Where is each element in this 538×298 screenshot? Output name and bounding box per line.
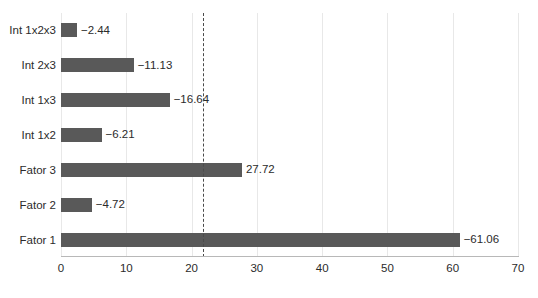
x-tick-10: 10 <box>120 262 133 274</box>
bar-value-label: −2.44 <box>81 25 110 37</box>
y-axis-labels: Int 1x2x3Int 2x3Int 1x3Int 1x2Fator 3Fat… <box>0 13 56 257</box>
bar-value-label: −6.21 <box>106 129 135 141</box>
x-tick-50: 50 <box>381 262 394 274</box>
bar-value-label: −4.72 <box>96 199 125 211</box>
x-tick-0: 0 <box>58 262 64 274</box>
y-axis-label-fator-1: Fator 1 <box>0 234 56 246</box>
reference-line <box>203 13 204 257</box>
x-tick-60: 60 <box>446 262 459 274</box>
bar-row: −4.72 <box>61 187 518 222</box>
gridline-70 <box>518 13 519 257</box>
y-axis-label-fator-3: Fator 3 <box>0 164 56 176</box>
x-axis-line <box>61 256 519 257</box>
y-axis-label-fator-2: Fator 2 <box>0 199 56 211</box>
x-tick-40: 40 <box>316 262 329 274</box>
bar-row: −61.06 <box>61 222 518 257</box>
bar-row: 27.72 <box>61 152 518 187</box>
bar <box>61 128 102 142</box>
bar-row: −11.13 <box>61 48 518 83</box>
plot-area: −2.44−11.13−16.64−6.2127.72−4.72−61.06 <box>61 13 518 257</box>
bar-value-label: −61.06 <box>464 234 500 246</box>
bar-row: −2.44 <box>61 13 518 48</box>
bar-value-label: 27.72 <box>246 164 275 176</box>
x-tick-70: 70 <box>512 262 525 274</box>
bar <box>61 93 170 107</box>
bar-row: −16.64 <box>61 83 518 118</box>
y-axis-label-int-2x3: Int 2x3 <box>0 59 56 71</box>
x-tick-30: 30 <box>250 262 263 274</box>
pareto-chart: Int 1x2x3Int 2x3Int 1x3Int 1x2Fator 3Fat… <box>0 0 538 298</box>
bar <box>61 58 134 72</box>
x-tick-20: 20 <box>185 262 198 274</box>
bar <box>61 233 460 247</box>
bar <box>61 23 77 37</box>
y-axis-label-int-1x3: Int 1x3 <box>0 94 56 106</box>
bar <box>61 163 242 177</box>
bar-value-label: −11.13 <box>138 60 173 72</box>
bar <box>61 198 92 212</box>
bar-row: −6.21 <box>61 118 518 153</box>
y-axis-label-int-1x2x3: Int 1x2x3 <box>0 24 56 36</box>
y-axis-label-int-1x2: Int 1x2 <box>0 129 56 141</box>
